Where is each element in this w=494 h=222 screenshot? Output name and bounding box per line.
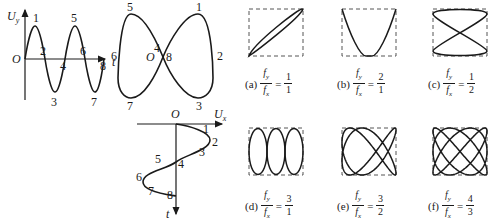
ux-axis-label: Ux: [214, 107, 227, 123]
caption-c: (c) fyfx = 12: [428, 68, 475, 99]
origin-label: O: [171, 107, 180, 121]
caption-label: (d): [245, 200, 258, 212]
freq-ratio-symbol: fyfx: [261, 190, 273, 221]
lissajous-f: [433, 128, 487, 175]
wave-point-1: 1: [33, 11, 39, 25]
ux-point-6: 6: [136, 170, 142, 184]
caption-label: (e): [337, 200, 349, 212]
wave-point-3: 3: [51, 95, 57, 109]
eight-point-3: 3: [196, 99, 202, 113]
lissajous-d: [249, 128, 303, 175]
lissajous-figure-diagram: Uy t O 12345678 12345678O 12345678OUxt: [0, 0, 494, 222]
eight-point-8: 8: [166, 50, 172, 64]
lissajous-e: [342, 128, 396, 175]
wave-point-5: 5: [71, 11, 77, 25]
caption-label: (f): [428, 200, 439, 212]
ratio-value: 32: [376, 194, 384, 217]
ratio-value: 12: [467, 72, 475, 95]
eight-point-7: 7: [127, 99, 133, 113]
uy-axis-label: Uy: [7, 9, 20, 25]
wave-point-7: 7: [91, 95, 97, 109]
wave-point-4: 4: [60, 59, 66, 73]
freq-ratio-symbol: fyfx: [352, 190, 364, 221]
lissajous-a: [249, 9, 303, 56]
lissajous-b: [342, 9, 396, 56]
ratio-value: 31: [285, 194, 293, 217]
equals-sign: =: [457, 200, 463, 212]
eight-point-6: 6: [111, 49, 117, 63]
ux-point-3: 3: [199, 145, 205, 159]
caption-label: (b): [337, 78, 350, 90]
lissajous-c: [433, 9, 487, 56]
freq-ratio-symbol: fyfx: [260, 68, 272, 99]
caption-label: (a): [245, 78, 257, 90]
ratio-value: 21: [377, 72, 385, 95]
equals-sign: =: [458, 78, 464, 90]
freq-ratio-symbol: fyfx: [443, 68, 455, 99]
eight-point-4: 4: [154, 41, 160, 55]
t-axis-label: t: [166, 207, 170, 221]
equals-sign: =: [368, 78, 374, 90]
caption-e: (e) fyfx = 32: [337, 190, 384, 221]
eight-point-5: 5: [127, 0, 133, 14]
wave-point-6: 6: [80, 44, 86, 58]
caption-d: (d) fyfx = 31: [245, 190, 293, 221]
equals-sign: =: [276, 200, 282, 212]
ux-point-7: 7: [148, 184, 154, 198]
origin-label: O: [146, 50, 155, 64]
eight-point-2: 2: [217, 49, 223, 63]
wave-point-labels: 12345678: [33, 11, 106, 109]
freq-ratio-symbol: fyfx: [442, 190, 454, 221]
equals-sign: =: [275, 78, 281, 90]
caption-label: (c): [428, 78, 440, 90]
caption-f: (f) fyfx = 43: [428, 190, 474, 221]
ux-point-8: 8: [167, 188, 173, 202]
eight-point-1: 1: [196, 0, 202, 14]
caption-a: (a) fyfx = 11: [245, 68, 292, 99]
ratio-value: 43: [466, 194, 474, 217]
ux-point-2: 2: [212, 135, 218, 149]
origin-label: O: [12, 52, 21, 66]
caption-b: (b) fyfx = 21: [337, 68, 385, 99]
freq-ratio-symbol: fyfx: [353, 68, 365, 99]
ux-point-5: 5: [155, 152, 161, 166]
wave-point-8: 8: [100, 59, 106, 73]
ux-point-1: 1: [203, 122, 209, 136]
ratio-value: 11: [284, 72, 292, 95]
wave-point-2: 2: [40, 44, 46, 58]
ux-point-4: 4: [178, 157, 184, 171]
equals-sign: =: [367, 200, 373, 212]
